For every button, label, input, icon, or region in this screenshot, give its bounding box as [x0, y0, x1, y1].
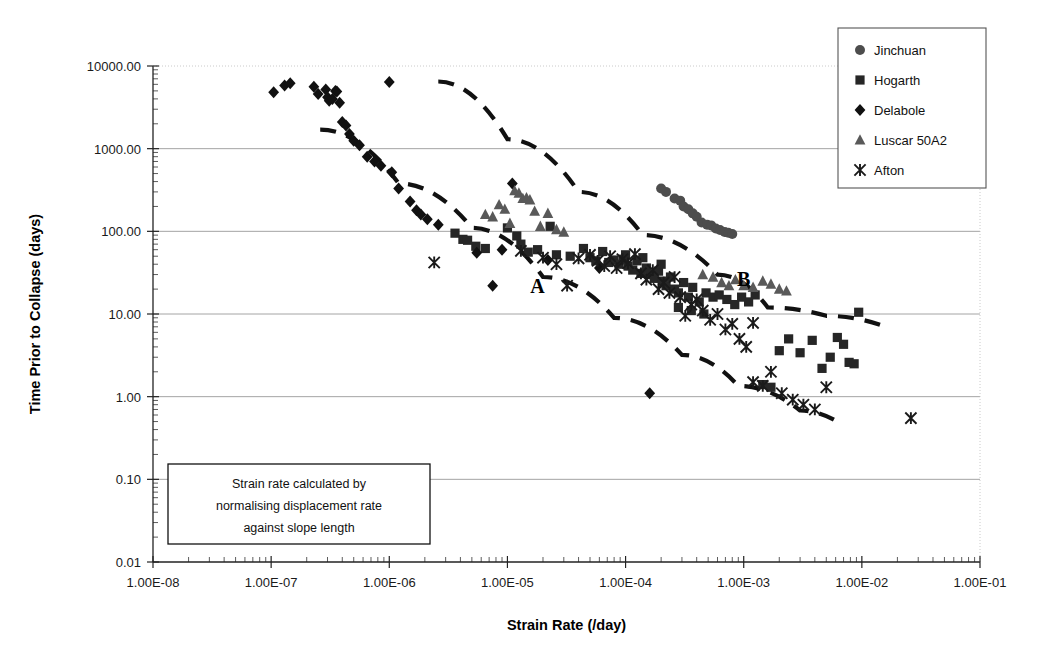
note-textbox: Strain rate calculated bynormalising dis… [168, 464, 430, 544]
data-point-square [854, 308, 863, 317]
data-point-square [679, 278, 688, 287]
data-point-square [808, 336, 817, 345]
y-tick-label: 100.00 [101, 224, 141, 239]
data-point-square [512, 231, 521, 240]
y-tick-label: 1.00 [116, 390, 141, 405]
legend-label-jinchuan: Jinchuan [874, 43, 926, 58]
x-tick-label: 1.00E-04 [599, 575, 652, 590]
data-point-square [784, 334, 793, 343]
legend: JinchuanHogarthDelaboleLuscar 50A2Afton [838, 28, 986, 188]
note-line: Strain rate calculated by [232, 477, 367, 491]
y-axis-title: Time Prior to Collapse (days) [27, 214, 43, 415]
data-point-square [546, 222, 555, 231]
y-tick-label: 0.10 [116, 472, 141, 487]
data-point-square [850, 359, 859, 368]
data-point-circle [855, 45, 865, 55]
data-point-square [481, 244, 490, 253]
data-point-square [855, 75, 864, 84]
data-point-square [826, 353, 835, 362]
legend-label-luscar-50a2: Luscar 50A2 [874, 133, 947, 148]
data-point-circle [656, 183, 666, 193]
x-tick-label: 1.00E-06 [363, 575, 416, 590]
chart-root: 10000.001000.00100.0010.001.000.100.011.… [0, 0, 1039, 659]
data-point-square [839, 340, 848, 349]
data-point-square [450, 229, 459, 238]
data-point-square [552, 250, 561, 259]
x-tick-label: 1.00E-03 [717, 575, 770, 590]
note-line: against slope length [243, 521, 354, 535]
data-point-square [688, 283, 697, 292]
x-tick-label: 1.00E-08 [127, 575, 180, 590]
x-tick-label: 1.00E-07 [245, 575, 298, 590]
y-tick-label: 10.00 [108, 307, 141, 322]
x-tick-label: 1.00E-05 [481, 575, 534, 590]
zone-label-b: B [737, 268, 750, 290]
data-point-square [817, 364, 826, 373]
data-point-square [722, 295, 731, 304]
legend-label-afton: Afton [874, 163, 904, 178]
data-point-square [463, 236, 472, 245]
x-tick-label: 1.00E-01 [954, 575, 1007, 590]
data-point-square [674, 303, 683, 312]
y-tick-label: 10000.00 [87, 59, 141, 74]
y-tick-label: 1000.00 [94, 142, 141, 157]
legend-label-hogarth: Hogarth [874, 73, 920, 88]
zone-label-a: A [530, 275, 545, 297]
legend-label-delabole: Delabole [874, 103, 925, 118]
data-point-square [775, 346, 784, 355]
legend-marker-jinchuan [855, 45, 865, 55]
data-point-circle [727, 229, 737, 239]
x-tick-label: 1.00E-02 [835, 575, 888, 590]
data-point-square [795, 348, 804, 357]
note-line: normalising displacement rate [216, 499, 382, 513]
scatter-chart: 10000.001000.00100.0010.001.000.100.011.… [0, 0, 1039, 659]
legend-marker-hogarth [855, 75, 864, 84]
x-axis-title: Strain Rate (/day) [507, 617, 626, 633]
y-tick-label: 0.01 [116, 555, 141, 570]
